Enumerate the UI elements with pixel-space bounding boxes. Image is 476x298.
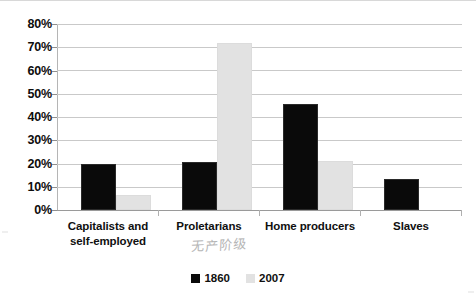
gridline-70 (57, 47, 462, 48)
legend-entry-1860: 1860 (191, 272, 230, 284)
y-tick-label-30: 30% (4, 133, 52, 147)
scan-artifact-right (468, 291, 474, 293)
y-axis-labels: 80% 70% 60% 50% 40% 30% 20% 10% 0% (0, 24, 52, 210)
x-axis-separator-2 (259, 210, 260, 216)
bar-2007-proletarians (217, 43, 252, 210)
gridline-40 (57, 117, 462, 118)
x-category-label-slaves-line1: Slaves (361, 219, 461, 234)
bar-1860-home-producers (283, 104, 318, 210)
x-category-label-capitalists-line2: self-employed (58, 234, 158, 249)
x-category-label-capitalists: Capitalists and self-employed (58, 219, 158, 249)
y-tick-label-10: 10% (4, 180, 52, 194)
scan-artifact-left (2, 231, 8, 233)
gridline-20 (57, 164, 462, 165)
y-tick-label-80: 80% (4, 17, 52, 31)
legend-label-1860: 1860 (204, 272, 230, 284)
chart-legend: 1860 2007 (0, 272, 476, 284)
gridline-80 (57, 24, 462, 25)
legend-entry-2007: 2007 (246, 272, 285, 284)
x-axis-separator-3 (360, 210, 361, 216)
gridline-30 (57, 140, 462, 141)
x-axis-separator-4 (461, 210, 462, 216)
bar-1860-slaves (384, 179, 419, 210)
gridline-60 (57, 70, 462, 71)
x-category-label-proletarians: Proletarians (159, 219, 259, 234)
y-tick-label-60: 60% (4, 64, 52, 78)
y-tick-label-0: 0% (4, 203, 52, 217)
x-axis-separator-1 (158, 210, 159, 216)
bar-2007-home-producers (318, 161, 353, 210)
plot-area (57, 24, 462, 210)
x-category-label-proletarians-line1: Proletarians (159, 219, 259, 234)
bar-1860-proletarians (182, 162, 217, 210)
handwritten-annotation: 无产阶级 (191, 233, 248, 255)
y-tick-label-70: 70% (4, 40, 52, 54)
bar-1860-capitalists (81, 164, 116, 211)
x-category-label-capitalists-line1: Capitalists and (58, 219, 158, 234)
y-tick-label-20: 20% (4, 157, 52, 171)
y-tick-label-40: 40% (4, 110, 52, 124)
gridline-50 (57, 94, 462, 95)
legend-swatch-2007-icon (246, 274, 255, 283)
x-category-label-slaves: Slaves (361, 219, 461, 234)
x-category-label-home-producers-line1: Home producers (260, 219, 360, 234)
x-category-label-home-producers: Home producers (260, 219, 360, 234)
bar-chart-figure: 80% 70% 60% 50% 40% 30% 20% 10% 0% (0, 0, 476, 298)
legend-swatch-1860-icon (191, 274, 200, 283)
bar-2007-capitalists (116, 195, 151, 210)
legend-label-2007: 2007 (259, 272, 285, 284)
y-tick-label-50: 50% (4, 87, 52, 101)
